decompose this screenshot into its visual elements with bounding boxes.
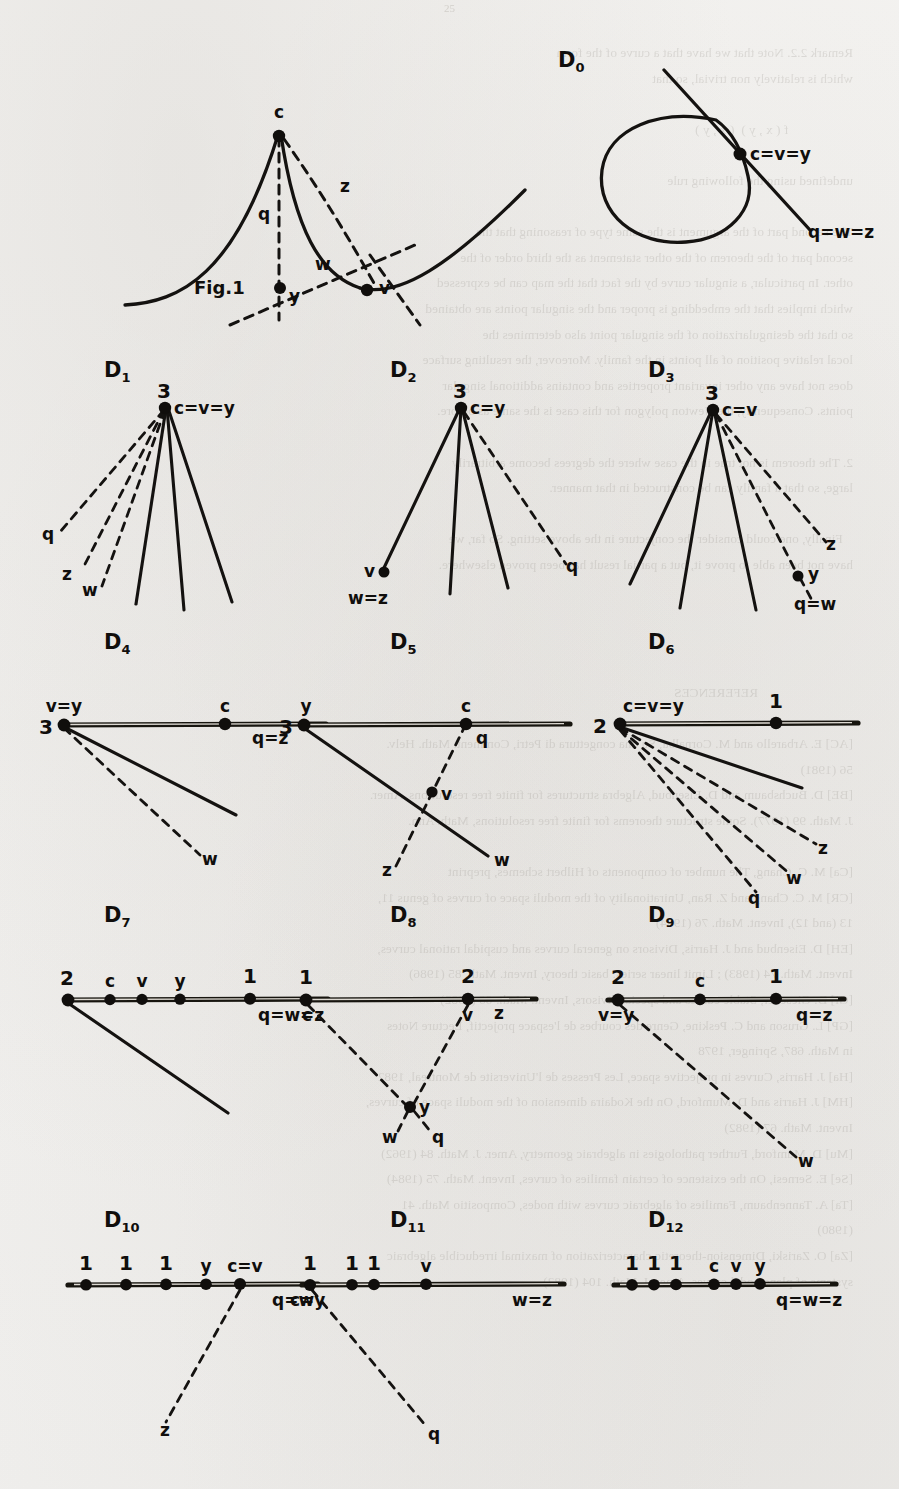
label-w-eq-z: w=z	[348, 588, 388, 608]
diagram-label-sub: 4	[121, 642, 130, 657]
label-multiplicity-1-c: 1	[669, 1251, 683, 1275]
label-multiplicity-1-a: 1	[625, 1251, 639, 1275]
node-1-b	[120, 1279, 132, 1291]
diagram-label-letter: D	[390, 630, 407, 654]
diagram-label-D12: D12	[648, 1208, 684, 1235]
label-multiplicity-1: 1	[769, 689, 783, 713]
diagram-label-letter: D	[648, 1208, 665, 1232]
label-c-eq-v-eq-y: c=v=y	[750, 144, 811, 164]
node-v	[426, 786, 437, 797]
label-y: y	[289, 286, 300, 306]
figure-fig1: c v y q z w	[70, 40, 540, 360]
diagram-label-letter: D	[104, 358, 121, 382]
label-multiplicity-1-a: 1	[303, 1251, 317, 1275]
label-q: q	[432, 1127, 444, 1147]
label-q-eq-w: q=w	[794, 594, 836, 614]
node-y	[174, 994, 185, 1005]
diagram-label-D7: D7	[104, 903, 130, 930]
label-z: z	[826, 534, 836, 554]
figure-D5: 3 y c v q z w	[280, 660, 580, 890]
label-v: v	[364, 561, 375, 581]
label-v: v	[136, 971, 147, 991]
node-c-v-y	[734, 148, 747, 161]
label-w: w	[786, 868, 802, 888]
diagram-label-letter: D	[648, 358, 665, 382]
label-multiplicity-2: 2	[611, 965, 625, 989]
label-v: v	[730, 1256, 741, 1276]
diagram-label-letter: D	[390, 903, 407, 927]
diagram-label-letter: D	[648, 630, 665, 654]
label-c: c	[709, 1256, 719, 1276]
label-z: z	[494, 1003, 504, 1023]
label-multiplicity-1-b: 1	[647, 1251, 661, 1275]
label-q: q	[566, 556, 578, 576]
label-y: y	[754, 1256, 765, 1276]
node-1-b	[648, 1279, 660, 1291]
node-y	[793, 571, 804, 582]
node-1-c	[670, 1279, 682, 1291]
diagram-label-sub: 11	[407, 1220, 425, 1235]
label-z: z	[818, 838, 828, 858]
node-y	[404, 1101, 416, 1113]
node-c	[219, 718, 231, 730]
diagram-label-sub: 5	[407, 642, 416, 657]
label-multiplicity-3: 3	[279, 715, 293, 739]
label-multiplicity-1: 1	[769, 964, 783, 988]
label-c: c	[461, 696, 471, 716]
label-q-eq-w-eq-z: q=w=z	[776, 1290, 842, 1310]
node-1-a	[346, 1279, 358, 1291]
node-1-a	[80, 1279, 92, 1291]
node-c	[273, 130, 285, 142]
label-c-eq-v: c=v	[227, 1256, 262, 1276]
diagram-label-D4: D4	[104, 630, 130, 657]
label-c-eq-v-eq-y: c=v=y	[174, 398, 235, 418]
figure-caption-fig1: Fig.1	[194, 277, 245, 298]
label-multiplicity-3: 3	[39, 715, 53, 739]
label-c-eq-v-eq-y: c=v=y	[623, 696, 684, 716]
node-y	[754, 1278, 766, 1290]
diagram-label-D8: D8	[390, 903, 416, 930]
label-c-eq-v: c=v	[722, 400, 757, 420]
label-w: w	[494, 850, 510, 870]
diagram-label-letter: D	[648, 903, 665, 927]
label-v-eq-y: v=y	[46, 696, 82, 716]
label-multiplicity-1: 1	[299, 965, 313, 989]
diagram-label-sub: 12	[665, 1220, 683, 1235]
label-multiplicity-3: 3	[157, 379, 171, 403]
node-y	[298, 719, 311, 732]
label-q: q	[748, 888, 760, 908]
diagram-label-sub: 8	[407, 915, 416, 930]
node-v	[379, 567, 390, 578]
label-c-eq-y: c=y	[470, 398, 505, 418]
label-q-eq-z: q=z	[796, 1005, 832, 1025]
diagram-label-letter: D	[104, 903, 121, 927]
label-z: z	[62, 564, 72, 584]
diagram-label-letter: D	[558, 48, 575, 72]
diagram-label-D9: D9	[648, 903, 674, 930]
label-multiplicity-3: 3	[453, 379, 467, 403]
figure-layer: c v y q z w Fig.1 D0 c=v=y q=w=z D1 3 c=…	[0, 0, 899, 1489]
diagram-label-letter: D	[390, 1208, 407, 1232]
label-c: c	[105, 971, 115, 991]
diagram-label-letter: D	[390, 358, 407, 382]
label-multiplicity-1: 1	[243, 964, 257, 988]
node-v	[462, 993, 474, 1005]
figure-D9: 2 1 c v=y q=z w	[590, 935, 890, 1165]
label-multiplicity-2: 2	[60, 966, 74, 990]
figure-D8: 1 2 c v y z w q	[280, 935, 580, 1165]
figure-D6: 2 1 c=v=y z w q	[590, 660, 899, 920]
diagram-label-D6: D6	[648, 630, 674, 657]
label-q-eq-w-eq-z: q=w=z	[808, 222, 874, 242]
diagram-label-sub: 10	[121, 1220, 139, 1235]
figure-D0: c=v=y q=w=z	[560, 70, 899, 320]
node-v-y	[58, 719, 71, 732]
label-c-eq-y: c=y	[290, 1290, 325, 1310]
node-1-c	[160, 1279, 172, 1291]
node-c-v-y	[159, 402, 171, 414]
label-v: v	[379, 278, 390, 298]
label-y: y	[174, 971, 185, 991]
diagram-label-sub: 9	[665, 915, 674, 930]
node-c-v	[707, 404, 719, 416]
label-v-eq-y: v=y	[598, 1005, 634, 1025]
label-z: z	[160, 1420, 170, 1440]
